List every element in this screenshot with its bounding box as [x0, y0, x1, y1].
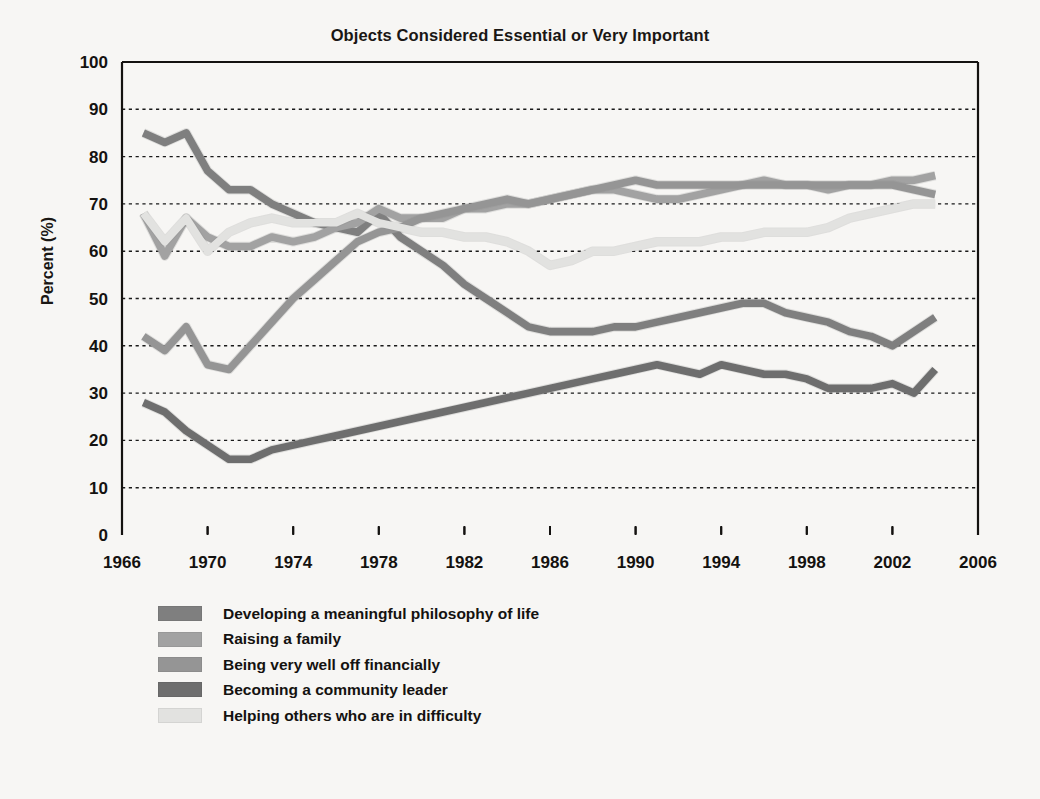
svg-text:1990: 1990 — [617, 553, 655, 572]
legend-item-label: Developing a meaningful philosophy of li… — [223, 606, 539, 622]
svg-text:0: 0 — [99, 526, 108, 545]
legend-swatch-icon — [158, 632, 202, 647]
svg-text:40: 40 — [89, 337, 108, 356]
svg-text:2002: 2002 — [873, 553, 911, 572]
legend-swatch-icon — [158, 708, 202, 723]
svg-text:10: 10 — [89, 479, 108, 498]
legend-item-label: Being very well off financially — [223, 657, 440, 673]
legend-swatch-icon — [158, 657, 202, 672]
chart-figure: Objects Considered Essential or Very Imp… — [0, 0, 1040, 799]
legend-item[interactable]: Becoming a community leader — [158, 677, 539, 702]
svg-text:80: 80 — [89, 148, 108, 167]
svg-text:1978: 1978 — [360, 553, 398, 572]
data-series-group — [143, 133, 935, 459]
svg-text:1998: 1998 — [788, 553, 826, 572]
legend-item-label: Helping others who are in difficulty — [223, 708, 481, 724]
x-tick-labels: 1966197019741978198219861990199419982002… — [103, 553, 997, 572]
svg-text:60: 60 — [89, 242, 108, 261]
y-tick-labels: 0102030405060708090100 — [80, 53, 108, 545]
svg-text:2006: 2006 — [959, 553, 997, 572]
svg-text:20: 20 — [89, 431, 108, 450]
legend-item[interactable]: Helping others who are in difficulty — [158, 703, 539, 728]
legend-swatch-icon — [158, 606, 202, 621]
svg-text:1974: 1974 — [274, 553, 312, 572]
svg-text:1966: 1966 — [103, 553, 141, 572]
svg-text:50: 50 — [89, 290, 108, 309]
svg-text:100: 100 — [80, 53, 108, 72]
chart-legend: Developing a meaningful philosophy of li… — [158, 601, 539, 728]
legend-item[interactable]: Developing a meaningful philosophy of li… — [158, 601, 539, 626]
svg-text:90: 90 — [89, 100, 108, 119]
svg-text:70: 70 — [89, 195, 108, 214]
svg-text:30: 30 — [89, 384, 108, 403]
svg-text:1970: 1970 — [189, 553, 227, 572]
svg-text:1986: 1986 — [531, 553, 569, 572]
axis-ticks — [122, 526, 978, 535]
svg-text:1982: 1982 — [445, 553, 483, 572]
legend-item[interactable]: Being very well off financially — [158, 652, 539, 677]
legend-item-label: Raising a family — [223, 631, 341, 647]
legend-item[interactable]: Raising a family — [158, 626, 539, 651]
svg-text:1994: 1994 — [702, 553, 740, 572]
legend-item-label: Becoming a community leader — [223, 682, 448, 698]
gridlines — [122, 109, 978, 487]
legend-swatch-icon — [158, 682, 202, 697]
